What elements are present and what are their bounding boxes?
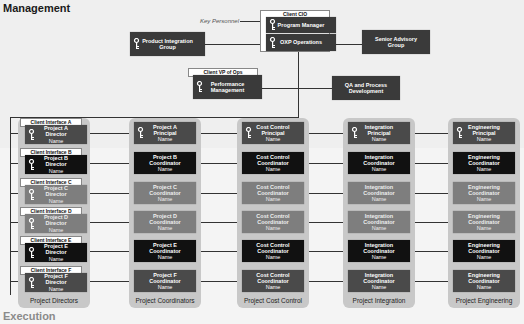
management-heading: Management <box>3 2 70 14</box>
role-name: Name <box>49 227 64 233</box>
role-name: Name <box>49 168 64 174</box>
product-integration-line2: Group <box>159 44 176 50</box>
program-manager-box[interactable]: Program Manager <box>266 17 336 33</box>
role-box[interactable]: IntegrationCoordinatorName <box>348 240 410 262</box>
key-icon <box>456 127 463 139</box>
key-icon <box>28 277 35 289</box>
key-icon <box>28 189 35 201</box>
role-name: Name <box>49 286 64 292</box>
role-box[interactable]: Project CCoordinatorName <box>134 182 196 204</box>
role-name: Name <box>158 225 173 231</box>
role-box[interactable]: IntegrationCoordinatorName <box>348 152 410 174</box>
role-name: Name <box>158 196 173 202</box>
role-name: Name <box>477 136 492 142</box>
role-box[interactable]: Project FDirectorName <box>25 273 87 292</box>
key-icon <box>28 218 35 230</box>
key-personnel-label: Key Personnel <box>200 18 239 24</box>
connector-line <box>262 88 332 89</box>
product-integration-box[interactable]: Product Integration Group <box>130 32 205 56</box>
role-name: Name <box>477 166 492 172</box>
key-personnel-line <box>240 21 262 22</box>
role-name: Name <box>372 196 387 202</box>
role-name: Name <box>266 196 281 202</box>
role-name: Name <box>158 284 173 290</box>
qa-process-line2: Development <box>349 88 384 94</box>
column-label: Project Directors <box>18 297 90 304</box>
key-icon <box>245 127 252 139</box>
role-box[interactable]: IntegrationCoordinatorName <box>348 182 410 204</box>
column-label: Project Integration <box>343 297 415 304</box>
role-name: Name <box>266 225 281 231</box>
role-name: Name <box>372 136 387 142</box>
role-box[interactable]: IntegrationCoordinatorName <box>348 270 410 292</box>
senior-advisory-box[interactable]: Senior Advisory Group <box>362 30 430 54</box>
role-name: Name <box>266 166 281 172</box>
key-icon <box>137 127 144 139</box>
oxp-operations-label: OXP Operations <box>280 39 322 45</box>
performance-management-box[interactable]: Performance Management <box>193 75 262 99</box>
role-box[interactable]: Cost ControlPrincipalName <box>242 122 304 144</box>
role-name: Name <box>266 284 281 290</box>
key-icon <box>28 159 35 171</box>
role-box[interactable]: Project ADirectorName <box>25 125 87 144</box>
role-name: Name <box>158 254 173 260</box>
program-manager-label: Program Manager <box>278 22 325 28</box>
role-box[interactable]: Project EDirectorName <box>25 243 87 262</box>
role-box[interactable]: Cost ControlCoordinatorName <box>242 270 304 292</box>
role-name: Name <box>49 256 64 262</box>
connector-line <box>205 44 262 45</box>
role-box[interactable]: Project BDirectorName <box>25 155 87 174</box>
role-name: Name <box>266 254 281 260</box>
role-box[interactable]: Project FCoordinatorName <box>134 270 196 292</box>
role-name: Name <box>372 225 387 231</box>
role-box[interactable]: EngineeringCoordinatorName <box>453 152 515 174</box>
role-name: Name <box>158 166 173 172</box>
senior-advisory-line2: Group <box>388 42 405 48</box>
key-icon <box>269 19 276 31</box>
role-box[interactable]: EngineeringCoordinatorName <box>453 270 515 292</box>
role-name: Name <box>266 136 281 142</box>
execution-heading: Execution <box>3 310 56 322</box>
role-box[interactable]: Project ECoordinatorName <box>134 240 196 262</box>
role-box[interactable]: Cost ControlCoordinatorName <box>242 240 304 262</box>
role-name: Name <box>49 198 64 204</box>
role-name: Name <box>477 254 492 260</box>
role-box[interactable]: Project CDirectorName <box>25 185 87 204</box>
role-box[interactable]: EngineeringCoordinatorName <box>453 211 515 233</box>
role-box[interactable]: Project BCoordinatorName <box>134 152 196 174</box>
role-box[interactable]: Cost ControlCoordinatorName <box>242 182 304 204</box>
key-icon <box>133 38 140 50</box>
role-box[interactable]: EngineeringPrincipalName <box>453 122 515 144</box>
role-box[interactable]: Cost ControlCoordinatorName <box>242 211 304 233</box>
role-box[interactable]: IntegrationCoordinatorName <box>348 211 410 233</box>
role-box[interactable]: Cost ControlCoordinatorName <box>242 152 304 174</box>
connector-line <box>10 117 11 295</box>
performance-line2: Management <box>211 87 245 93</box>
role-box[interactable]: Project DDirectorName <box>25 214 87 233</box>
column-label: Project Engineering <box>448 297 520 304</box>
connector-line <box>336 44 362 45</box>
connector-line <box>298 51 299 118</box>
role-name: Name <box>477 284 492 290</box>
role-name: Name <box>372 254 387 260</box>
key-icon <box>196 81 203 93</box>
key-icon <box>28 247 35 259</box>
key-icon <box>28 129 35 141</box>
column-label: Project Coordinators <box>129 297 201 304</box>
role-name: Name <box>477 196 492 202</box>
role-box[interactable]: Project DCoordinatorName <box>134 211 196 233</box>
role-name: Name <box>372 166 387 172</box>
key-icon <box>351 127 358 139</box>
role-name: Name <box>158 136 173 142</box>
role-name: Name <box>372 284 387 290</box>
role-box[interactable]: EngineeringCoordinatorName <box>453 182 515 204</box>
qa-process-box[interactable]: QA and Process Development <box>332 76 400 100</box>
role-box[interactable]: Project APrincipalName <box>134 122 196 144</box>
oxp-operations-box[interactable]: OXP Operations <box>266 34 336 51</box>
role-name: Name <box>477 225 492 231</box>
role-name: Name <box>49 138 64 144</box>
column-label: Project Cost Control <box>237 297 309 304</box>
key-icon <box>269 37 276 49</box>
role-box[interactable]: IntegrationPrincipalName <box>348 122 410 144</box>
role-box[interactable]: EngineeringCoordinatorName <box>453 240 515 262</box>
